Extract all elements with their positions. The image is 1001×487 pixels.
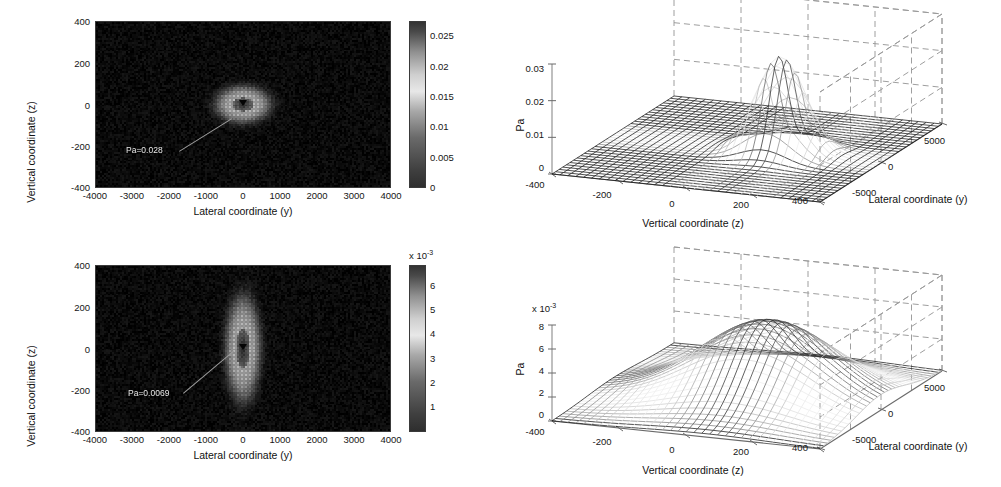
xtick-top-left-0: -4000 (83, 191, 107, 201)
xtick-top-right-0: -400 (525, 180, 544, 190)
ztick-bottom-right-4: 8 (539, 322, 544, 332)
xtick-top-right-4: 400 (792, 196, 808, 206)
heatmap-bottom-left: Pa=0.0069 (95, 265, 391, 432)
xtick-top-left-4: 0 (240, 191, 245, 201)
panel-heatmap-top-left: Vertical coordinate (z) Pa=0.028 400 200… (0, 0, 500, 244)
axis-label-x-bottom-right: Vertical coordinate (z) (642, 465, 744, 476)
xtick-top-right-3: 200 (733, 200, 749, 210)
xtick-top-left-6: 2000 (306, 191, 327, 201)
ztick-top-right-2: 0.02 (526, 97, 545, 107)
ytick-top-left-3: -200 (71, 142, 90, 152)
ztick-bottom-right-0: 0 (539, 410, 544, 420)
xtick-bottom-left-4: 0 (240, 435, 245, 445)
peak-marker-top-left (239, 100, 247, 106)
ztick-bottom-right-2: 4 (539, 366, 544, 376)
surface-exponent-power: -3 (550, 302, 556, 309)
cbar-tick-top-left-3: 0.015 (430, 92, 454, 102)
colorbar-exponent-bottom-left: x 10-3 (409, 249, 433, 261)
axis-label-x-top-right: Vertical coordinate (z) (642, 218, 744, 229)
xtick-bottom-left-1: -3000 (120, 435, 144, 445)
ytick-top-left-2: 0 (85, 101, 90, 111)
colorbar-exponent-base: x 10 (409, 250, 427, 261)
ztick-top-right-0: 0 (539, 163, 544, 173)
xtick-top-left-2: -2000 (157, 191, 181, 201)
ytick-bottom-left-3: -200 (71, 386, 90, 396)
xtick-bottom-right-2: 0 (669, 445, 674, 455)
xtick-bottom-left-8: 4000 (380, 435, 401, 445)
annotation-bottom-left: Pa=0.0069 (128, 389, 169, 398)
cbar-tick-bottom-left-2: 3 (430, 354, 435, 364)
xtick-bottom-right-3: 200 (733, 447, 749, 457)
surface-exponent-base: x 10 (532, 303, 550, 314)
xtick-bottom-left-3: -1000 (194, 435, 218, 445)
colorbar-top-left (409, 21, 426, 188)
ztick-top-right-3: 0.03 (526, 64, 545, 74)
cbar-tick-bottom-left-4: 5 (430, 305, 435, 315)
xtick-top-left-7: 3000 (343, 191, 364, 201)
cbar-tick-bottom-left-3: 4 (430, 330, 435, 340)
xtick-bottom-left-2: -2000 (157, 435, 181, 445)
xtick-bottom-left-7: 3000 (343, 435, 364, 445)
ytick-top-left-0: 400 (74, 17, 90, 27)
axis-label-x-bottom-left: Lateral coordinate (y) (193, 450, 292, 461)
colorbar-bottom-left (409, 265, 426, 432)
panel-heatmap-bottom-left: Vertical coordinate (z) Pa=0.0069 400 20… (0, 244, 500, 487)
xtick-top-left-5: 1000 (269, 191, 290, 201)
cbar-tick-top-left-2: 0.01 (430, 122, 449, 132)
cbar-tick-bottom-left-5: 6 (430, 281, 435, 291)
ytick-top-right-1: 0 (888, 162, 893, 172)
cbar-tick-top-left-5: 0.025 (430, 31, 454, 41)
cbar-tick-bottom-left-1: 2 (430, 378, 435, 388)
annotation-top-left: Pa=0.028 (126, 146, 163, 155)
xtick-bottom-right-0: -400 (525, 427, 544, 437)
ytick-top-right-2: 5000 (924, 136, 945, 146)
surface-top-right (500, 0, 1001, 244)
axis-label-y-top-left: Vertical coordinate (z) (26, 101, 37, 203)
cbar-tick-top-left-4: 0.02 (430, 62, 449, 72)
axis-label-y-top-right: Lateral coordinate (y) (868, 194, 967, 205)
axis-label-x-top-left: Lateral coordinate (y) (193, 206, 292, 217)
peak-marker-bottom-left (239, 344, 247, 350)
figure-canvas: Vertical coordinate (z) Pa=0.028 400 200… (0, 0, 1001, 487)
xtick-bottom-left-0: -4000 (83, 435, 107, 445)
xtick-top-right-1: -200 (592, 190, 611, 200)
surface-exponent-bottom-right: x 10-3 (532, 302, 556, 314)
cbar-tick-top-left-0: 0 (430, 183, 435, 193)
ytick-bottom-left-0: 400 (74, 261, 90, 271)
xtick-top-left-1: -3000 (120, 191, 144, 201)
ztick-top-right-1: 0.01 (526, 130, 545, 140)
heatmap-top-left: Pa=0.028 (95, 21, 391, 188)
ytick-bottom-right-2: 5000 (924, 383, 945, 393)
panel-surface-bottom-right: Pa x 10-3 8 6 4 2 0 -400 -200 0 200 400 … (500, 244, 1001, 487)
ztick-bottom-right-1: 2 (539, 388, 544, 398)
ytick-top-left-1: 200 (74, 59, 90, 69)
ytick-bottom-right-1: 0 (888, 409, 893, 419)
axis-label-y-bottom-right: Lateral coordinate (y) (868, 441, 967, 452)
xtick-bottom-left-6: 2000 (306, 435, 327, 445)
xtick-top-left-8: 4000 (380, 191, 401, 201)
axis-label-y-bottom-left: Vertical coordinate (z) (26, 345, 37, 447)
cbar-tick-top-left-1: 0.005 (430, 153, 454, 163)
panel-surface-top-right: Pa 0.03 0.02 0.01 0 -400 -200 0 200 400 … (500, 0, 1001, 244)
xtick-top-left-3: -1000 (194, 191, 218, 201)
xtick-bottom-left-5: 1000 (269, 435, 290, 445)
xtick-bottom-right-1: -200 (592, 437, 611, 447)
colorbar-exponent-power: -3 (427, 249, 433, 256)
ytick-bottom-left-1: 200 (74, 303, 90, 313)
ztick-bottom-right-3: 6 (539, 344, 544, 354)
xtick-top-right-2: 0 (669, 199, 674, 209)
ytick-bottom-left-2: 0 (85, 345, 90, 355)
xtick-bottom-right-4: 400 (792, 443, 808, 453)
cbar-tick-bottom-left-0: 1 (430, 402, 435, 412)
